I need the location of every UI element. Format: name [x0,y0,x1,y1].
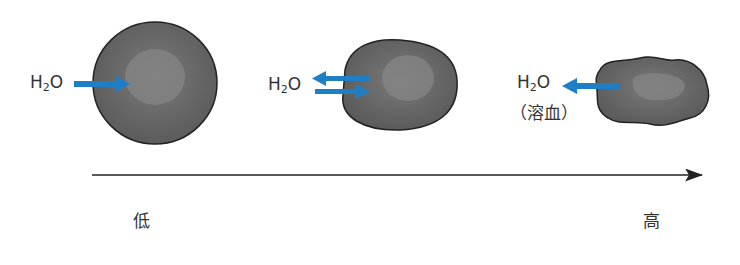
h2o-label-3: H2O [517,72,550,94]
diagram-canvas [0,0,740,265]
axis-low-label: 低 [133,207,150,232]
h2o-label-1: H2O [30,72,63,94]
axis-high-label: 高 [643,207,660,232]
hemolysis-label: （溶血） [510,99,578,124]
cell-equilibrium [343,40,457,130]
h2o-label-2: H2O [268,74,301,96]
cell-crenated [596,57,708,125]
nucleus-icon [382,55,434,101]
nucleus-icon [125,49,185,105]
